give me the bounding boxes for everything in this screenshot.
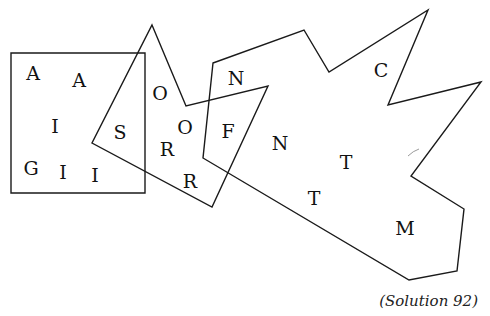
solution-caption: (Solution 92)	[379, 292, 478, 310]
puzzle-diagram: A A I G I I S O O R R N F N C T T M	[0, 0, 490, 316]
letter: N	[228, 67, 245, 89]
stray-mark	[408, 149, 419, 156]
letter: R	[160, 138, 175, 160]
letter: I	[59, 161, 67, 183]
letter: C	[374, 59, 389, 81]
letter: A	[25, 62, 40, 84]
letter: T	[340, 151, 353, 173]
letter: F	[221, 120, 234, 142]
letter: N	[272, 132, 289, 154]
letter: S	[113, 121, 126, 143]
star-shape	[203, 10, 481, 280]
letter: I	[51, 115, 59, 137]
letter: G	[23, 157, 38, 179]
letter: T	[308, 187, 321, 209]
letter: M	[395, 217, 414, 239]
letter: R	[183, 170, 198, 192]
letter: O	[177, 116, 193, 138]
letter: A	[71, 69, 86, 91]
letter: I	[91, 164, 99, 186]
letter: O	[152, 82, 168, 104]
